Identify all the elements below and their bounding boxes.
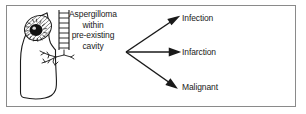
- arrow-to-infarction: [126, 49, 179, 56]
- source-line-2: within: [62, 20, 124, 31]
- figure-root: Aspergilloma within pre-existing cavity …: [0, 0, 306, 114]
- arrow-to-malignant: [126, 52, 176, 88]
- source-text-block: Aspergilloma within pre-existing cavity: [62, 9, 124, 51]
- outcome-label-infarction: Infarction: [182, 47, 216, 57]
- fungus-ball-highlight: [32, 27, 36, 30]
- branching-arrows: [118, 10, 184, 100]
- outcome-label-infection: Infection: [182, 13, 213, 23]
- source-line-1: Aspergilloma: [62, 9, 124, 20]
- outcome-label-malignant: Malignant: [182, 82, 218, 92]
- source-line-4: cavity: [62, 41, 124, 52]
- arrow-to-infection: [126, 17, 178, 52]
- fungus-ball: [30, 24, 43, 36]
- source-line-3: pre-existing: [62, 30, 124, 41]
